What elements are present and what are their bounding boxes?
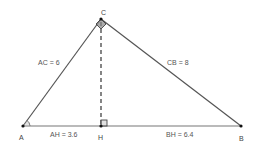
segment-label-cb: CB = 8 bbox=[167, 59, 189, 66]
point-a bbox=[21, 124, 24, 127]
triangle-diagram: C A H B AC = 6 CB = 8 AH = 3.6 BH = 6.4 bbox=[0, 0, 256, 149]
side-cb bbox=[101, 19, 241, 126]
side-ac bbox=[23, 19, 101, 126]
segment-label-ah: AH = 3.6 bbox=[50, 131, 78, 138]
vertex-label-b: B bbox=[239, 135, 244, 142]
segment-label-ac: AC = 6 bbox=[38, 59, 60, 66]
vertex-label-a: A bbox=[19, 134, 24, 141]
vertex-label-c: C bbox=[101, 9, 106, 16]
point-c bbox=[99, 17, 102, 20]
vertex-label-h: H bbox=[98, 134, 103, 141]
point-b bbox=[239, 124, 242, 127]
segment-label-bh: BH = 6.4 bbox=[166, 131, 194, 138]
point-h bbox=[99, 124, 102, 127]
